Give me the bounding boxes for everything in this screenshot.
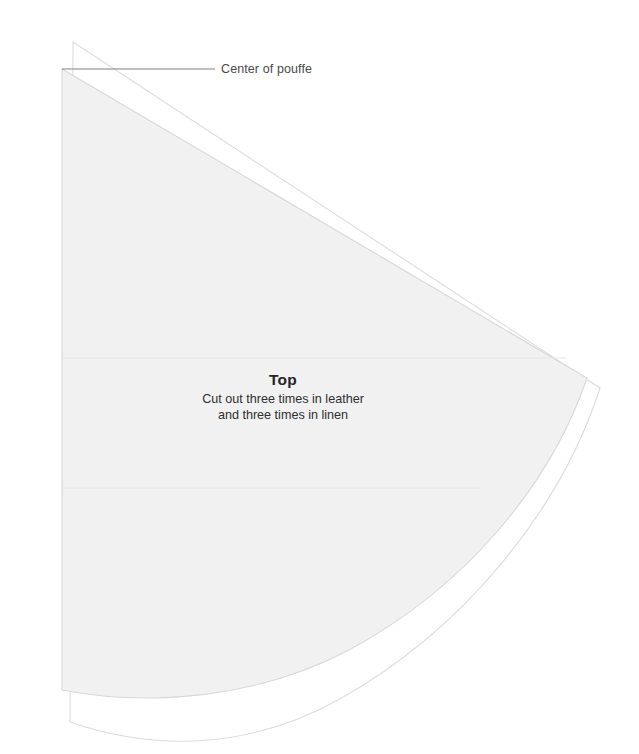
center-of-pouffe-label: Center of pouffe — [221, 62, 312, 76]
instruction-line-2: and three times in linen — [163, 408, 403, 424]
pattern-diagram-canvas: Center of pouffe Top Cut out three times… — [0, 0, 639, 754]
pattern-piece-caption: Top Cut out three times in leather and t… — [163, 370, 403, 423]
instruction-line-1: Cut out three times in leather — [163, 392, 403, 408]
pattern-piece-instructions: Cut out three times in leather and three… — [163, 392, 403, 423]
pattern-piece-title: Top — [163, 370, 403, 389]
